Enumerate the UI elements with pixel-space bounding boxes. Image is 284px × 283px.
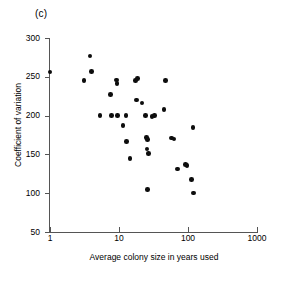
data-point bbox=[124, 113, 129, 118]
data-point bbox=[175, 167, 180, 172]
data-point bbox=[145, 187, 150, 192]
y-tick-mark bbox=[45, 77, 50, 78]
data-point bbox=[185, 163, 190, 168]
scatter-plot-figure: (c) 50100150200250300 1101001000 Average… bbox=[0, 0, 284, 283]
data-point bbox=[152, 113, 157, 118]
x-tick-mark bbox=[119, 227, 120, 232]
x-axis-title: Average colony size in years used bbox=[50, 252, 258, 262]
data-point bbox=[135, 76, 140, 81]
data-point bbox=[134, 98, 139, 103]
y-tick-mark bbox=[45, 193, 50, 194]
data-point bbox=[140, 101, 145, 106]
data-point bbox=[89, 69, 94, 74]
x-tick-label: 10 bbox=[99, 234, 139, 243]
data-point bbox=[88, 54, 93, 59]
data-point bbox=[115, 113, 120, 118]
x-axis-line bbox=[50, 232, 258, 233]
panel-label: (c) bbox=[35, 8, 47, 19]
y-axis-line bbox=[49, 38, 50, 233]
data-point bbox=[128, 156, 133, 161]
y-tick-label: 300 bbox=[12, 34, 40, 43]
x-tick-label: 100 bbox=[168, 234, 208, 243]
data-point bbox=[115, 81, 120, 86]
x-tick-label: 1000 bbox=[237, 234, 277, 243]
data-point bbox=[143, 113, 148, 118]
data-point bbox=[191, 191, 196, 196]
x-tick-mark bbox=[50, 227, 51, 232]
data-point bbox=[189, 177, 194, 182]
data-point bbox=[108, 92, 113, 97]
y-tick-mark bbox=[45, 38, 50, 39]
data-point bbox=[98, 113, 103, 118]
data-point bbox=[109, 113, 114, 118]
data-point bbox=[163, 78, 168, 83]
data-point bbox=[191, 125, 196, 130]
data-point bbox=[121, 123, 126, 128]
x-tick-mark bbox=[188, 227, 189, 232]
data-point bbox=[162, 107, 167, 112]
y-axis-title: Coefficient of variation bbox=[13, 55, 23, 195]
data-point bbox=[124, 139, 129, 144]
data-point bbox=[146, 151, 151, 156]
data-point bbox=[48, 70, 53, 75]
x-tick-label: 1 bbox=[30, 234, 70, 243]
y-tick-mark bbox=[45, 116, 50, 117]
y-tick-mark bbox=[45, 154, 50, 155]
data-point bbox=[82, 78, 87, 83]
x-tick-mark bbox=[257, 227, 258, 232]
data-point bbox=[145, 137, 150, 142]
data-point bbox=[172, 137, 177, 142]
